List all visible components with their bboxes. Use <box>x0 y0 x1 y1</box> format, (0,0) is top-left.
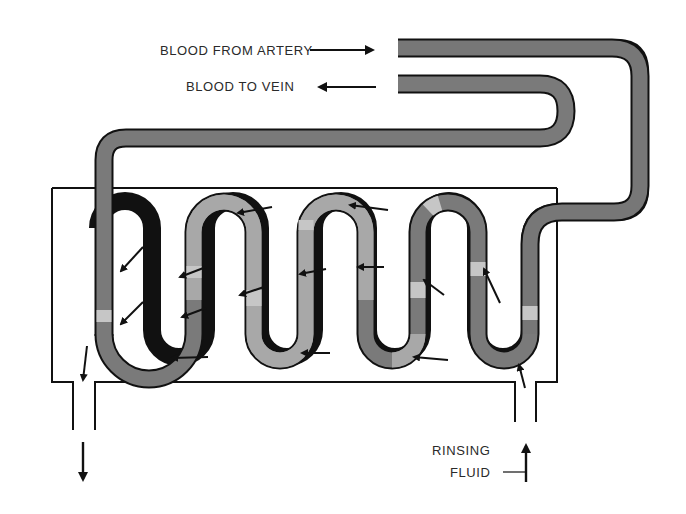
rinsing-fluid-inlet: RINSING FLUID <box>432 443 526 482</box>
dialysis-diagram: BLOOD FROM ARTERY BLOOD TO VEIN RINSING … <box>0 0 686 514</box>
artery-inflow: BLOOD FROM ARTERY <box>160 43 372 58</box>
arrow-icon <box>121 302 143 324</box>
arrow-icon <box>83 346 87 380</box>
label-blood-to-vein: BLOOD TO VEIN <box>186 79 294 94</box>
arrow-icon <box>121 247 143 271</box>
arrow-icon <box>519 365 525 388</box>
label-rinsing: RINSING <box>432 443 490 458</box>
label-fluid: FLUID <box>450 465 491 480</box>
vein-outflow: BLOOD TO VEIN <box>186 79 376 94</box>
arrow-icon <box>172 357 208 358</box>
arrow-icon <box>414 357 448 360</box>
label-blood-from-artery: BLOOD FROM ARTERY <box>160 43 313 58</box>
